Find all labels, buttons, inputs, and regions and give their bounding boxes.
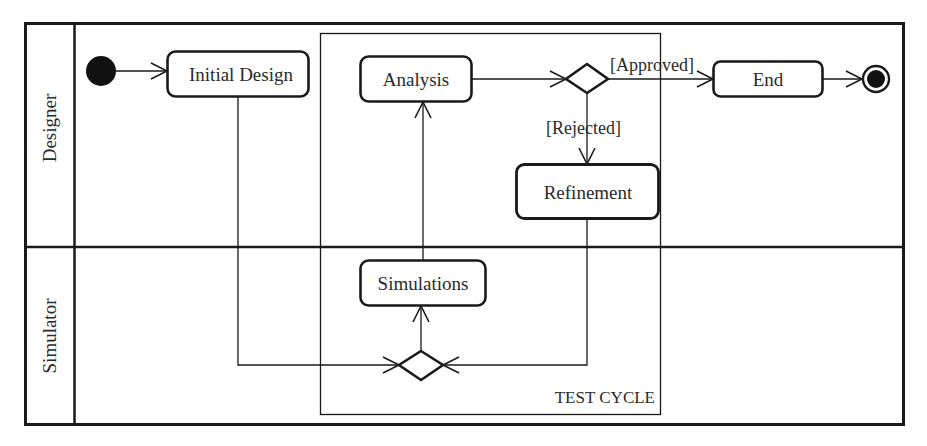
guard-rejected: [Rejected]: [546, 118, 621, 138]
guard-approved: [Approved]: [610, 55, 694, 75]
final-node-icon[interactable]: [863, 66, 889, 92]
action-initial-design-label: Initial Design: [189, 64, 293, 85]
action-end-label: End: [753, 69, 784, 90]
edge-initial-design-to-merge: [238, 97, 399, 365]
lane-label-designer: Designer: [39, 93, 60, 162]
action-end[interactable]: End: [714, 62, 823, 97]
action-analysis[interactable]: Analysis: [361, 57, 472, 102]
action-refinement[interactable]: Refinement: [517, 165, 659, 219]
action-initial-design[interactable]: Initial Design: [168, 52, 309, 97]
action-refinement-label: Refinement: [544, 182, 633, 203]
initial-node-icon[interactable]: [86, 56, 116, 86]
lane-label-simulator: Simulator: [39, 298, 60, 374]
test-cycle-label: TEST CYCLE: [555, 388, 655, 407]
decision-node-icon[interactable]: [566, 64, 608, 93]
edges: [116, 71, 862, 365]
action-simulations[interactable]: Simulations: [361, 261, 486, 306]
activity-diagram: Designer Simulator TEST CYCLE [Approved]…: [0, 0, 927, 446]
merge-node-icon[interactable]: [399, 351, 443, 380]
action-analysis-label: Analysis: [383, 69, 450, 90]
action-simulations-label: Simulations: [378, 273, 469, 294]
